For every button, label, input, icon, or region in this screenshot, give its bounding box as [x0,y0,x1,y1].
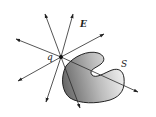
field-line [16,39,61,57]
field-line [61,14,73,57]
surface-label: S [121,59,127,69]
field-line [45,14,61,57]
closed-surface [63,52,125,103]
charge-label: q [47,52,53,62]
field-label: E [79,19,87,29]
point-charge [59,55,63,59]
gauss-law-diagram: q E S [0,0,156,117]
diagram-canvas: q E S [0,0,156,117]
